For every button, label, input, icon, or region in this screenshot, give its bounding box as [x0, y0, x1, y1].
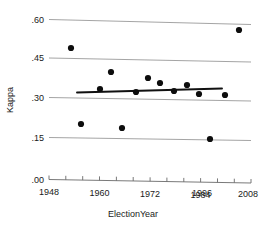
data-point: [222, 92, 228, 98]
x-axis-title: ElectionYear: [108, 209, 158, 219]
chart-canvas: .60 .45 .30 .15 .00 1948 1960 1972 1984: [0, 0, 266, 232]
gridline-0-30: [49, 98, 251, 102]
x-tick-label-1960: 1960: [89, 188, 109, 198]
y-tick-label-000: .00: [31, 175, 44, 185]
data-point: [133, 89, 139, 95]
gridline-0-60: [49, 20, 251, 25]
data-point: [108, 69, 114, 75]
data-point: [196, 91, 202, 97]
x-axis-group: [49, 176, 251, 184]
data-point: [119, 125, 125, 131]
x-axis-tick-labels: 1948 1960 1972 1984: [39, 187, 211, 200]
scatter-plot-figure: .60 .45 .30 .15 .00 1948 1960 1972 1984: [0, 0, 266, 232]
data-point: [207, 136, 213, 142]
data-point: [145, 75, 151, 81]
data-point: [78, 121, 84, 127]
data-point: [171, 88, 177, 94]
x-tick-label-1972: 1972: [140, 189, 160, 199]
y-tick-label-015: .15: [31, 133, 44, 143]
x-tick-label-2008: 2008: [238, 189, 258, 199]
x-tick-label-1996-alt: 1996: [192, 188, 212, 198]
data-point: [184, 82, 190, 88]
data-points-group: [68, 27, 242, 142]
gridline-0-45: [49, 58, 251, 62]
y-axis-tick-labels: .60 .45 .30 .15 .00: [31, 15, 44, 185]
data-point: [157, 80, 163, 86]
y-tick-label-045: .45: [31, 53, 44, 63]
data-point: [68, 45, 74, 51]
x-tick-label-1948: 1948: [39, 187, 59, 197]
y-tick-label-060: .60: [31, 15, 44, 25]
y-tick-label-030: .30: [31, 93, 44, 103]
y-axis-title: Kappa: [5, 87, 15, 113]
x-axis-ticks: [49, 176, 251, 184]
data-point: [97, 86, 103, 92]
data-point: [236, 27, 242, 33]
gridline-0-15: [49, 138, 251, 141]
